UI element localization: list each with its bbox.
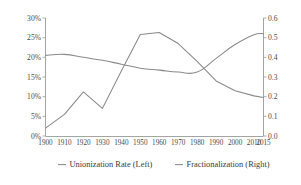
right-tick-label: 0.3 — [268, 73, 278, 82]
right-axis: 0.00.10.20.30.40.50.6 — [264, 14, 278, 141]
x-axis-tick-labels: 1900191019201930194019501960197019801990… — [38, 139, 271, 147]
x-tick-label: 1950 — [133, 139, 148, 147]
x-tick-label: 1900 — [38, 139, 53, 147]
right-tick-label: 0.4 — [268, 53, 278, 62]
x-tick-label: 1930 — [95, 139, 110, 147]
x-tick-label: 1980 — [190, 139, 205, 147]
x-tick-label: 1910 — [57, 139, 72, 147]
right-tick-label: 0.6 — [268, 14, 278, 23]
left-tick-label: 10% — [27, 92, 42, 101]
left-tick-label: 25% — [27, 33, 42, 42]
right-axis-tick-labels: 0.00.10.20.30.40.50.6 — [268, 14, 278, 141]
series-line-2 — [46, 33, 264, 73]
right-tick-label: 0.2 — [268, 92, 278, 101]
chart-figure: 0%5%10%15%20%25%30% 0.00.10.20.30.40.50.… — [0, 0, 301, 185]
legend-item-label: Fractionalization (Right) — [187, 160, 270, 169]
legend-item-label: Unionization Rate (Left) — [70, 160, 153, 169]
series-lines — [46, 33, 264, 129]
x-tick-label: 1940 — [114, 139, 129, 147]
right-tick-label: 0.5 — [268, 33, 278, 42]
left-tick-label: 20% — [27, 53, 42, 62]
x-tick-label: 2015 — [256, 139, 271, 147]
x-tick-label: 1920 — [76, 139, 91, 147]
left-axis: 0%5%10%15%20%25%30% — [27, 14, 45, 141]
x-tick-label: 1960 — [152, 139, 167, 147]
x-tick-label: 1970 — [171, 139, 186, 147]
right-tick-label: 0.1 — [268, 112, 278, 121]
bottom-axis: 1900191019201930194019501960197019801990… — [38, 137, 271, 148]
chart-legend: Unionization Rate (Left)Fractionalizatio… — [58, 160, 270, 169]
left-tick-label: 30% — [27, 14, 42, 23]
right-axis-ticks — [264, 18, 267, 136]
left-tick-label: 15% — [27, 73, 42, 82]
line-chart: 0%5%10%15%20%25%30% 0.00.10.20.30.40.50.… — [0, 0, 301, 185]
x-tick-label: 1990 — [209, 139, 224, 147]
left-tick-label: 5% — [31, 112, 42, 121]
left-axis-tick-labels: 0%5%10%15%20%25%30% — [27, 14, 42, 141]
x-tick-label: 2000 — [228, 139, 243, 147]
